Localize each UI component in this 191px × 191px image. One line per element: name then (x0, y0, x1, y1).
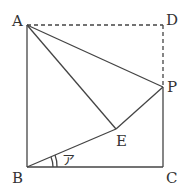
segment-PE (116, 87, 163, 129)
segment-AP (27, 25, 163, 87)
angle-arc-outer (55, 155, 57, 167)
point-label-A: A (11, 12, 23, 30)
point-label-P: P (167, 78, 177, 96)
point-label-B: B (12, 169, 23, 187)
angle-label: ア (62, 152, 75, 167)
point-label-C: C (166, 169, 177, 187)
segment-AE (27, 25, 116, 129)
point-label-E: E (116, 132, 127, 150)
geometry-diagram: A D P E B C ア (0, 0, 191, 191)
angle-arc-inner (51, 157, 53, 167)
point-label-D: D (166, 11, 178, 29)
